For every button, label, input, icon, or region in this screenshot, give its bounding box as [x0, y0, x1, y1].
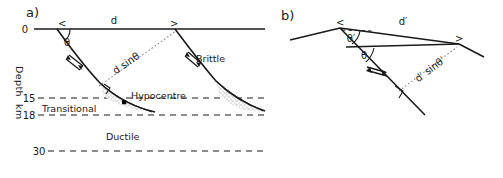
- left-fault-slip-arrow: [66, 55, 83, 70]
- panel-b-theta-label: θ: [361, 50, 367, 61]
- zone-label-brittle: Brittle: [196, 53, 225, 64]
- panel-b-inner-surface: [346, 44, 459, 47]
- panel-b-reference-line: [342, 30, 372, 31]
- panel-b-d-span-left-arrow: <: [336, 17, 344, 28]
- axis-tick-0: 0: [22, 24, 28, 35]
- fault-geometry-figure: a) Depth km 0 15 18 30: [0, 0, 503, 178]
- panel-a-label: a): [26, 5, 39, 20]
- panel-b-label: b): [281, 8, 294, 23]
- panel-b-d-distance-label: d′: [399, 16, 408, 27]
- hypocentre-label: Hypocentre: [131, 90, 186, 101]
- zone-label-ductile: Ductile: [106, 131, 140, 142]
- axis-tick-30: 30: [33, 146, 46, 157]
- right-fault-trace: [175, 29, 265, 111]
- d-span-right-arrow: >: [170, 18, 178, 29]
- panel-b-right-surface: [459, 44, 484, 57]
- theta-angle-label: θ: [64, 37, 70, 48]
- panel-b-slip-arrow: [366, 67, 387, 76]
- panel-a: a) Depth km 0 15 18 30: [14, 5, 265, 157]
- right-fault-stipple-lower: [216, 80, 263, 111]
- panel-b: b) θ′ θ: [281, 8, 484, 115]
- d-sin-theta-label: d sinθ: [111, 50, 142, 76]
- panel-b-d-span-right-arrow: >: [455, 33, 463, 44]
- axis-tick-15: 15: [23, 93, 36, 104]
- axis-tick-18: 18: [23, 110, 36, 121]
- hypocentre-marker: [122, 100, 126, 104]
- panel-b-left-surface: [290, 28, 340, 40]
- panel-b-projection-label: d′ sinθ′: [413, 54, 448, 84]
- zone-label-transitional: Transitional: [41, 103, 96, 114]
- figure-canvas: a) Depth km 0 15 18 30: [0, 0, 503, 178]
- d-span-left-arrow: <: [58, 18, 66, 29]
- d-distance-label: d: [111, 15, 117, 26]
- panel-b-theta-primed-label: θ′: [347, 33, 356, 44]
